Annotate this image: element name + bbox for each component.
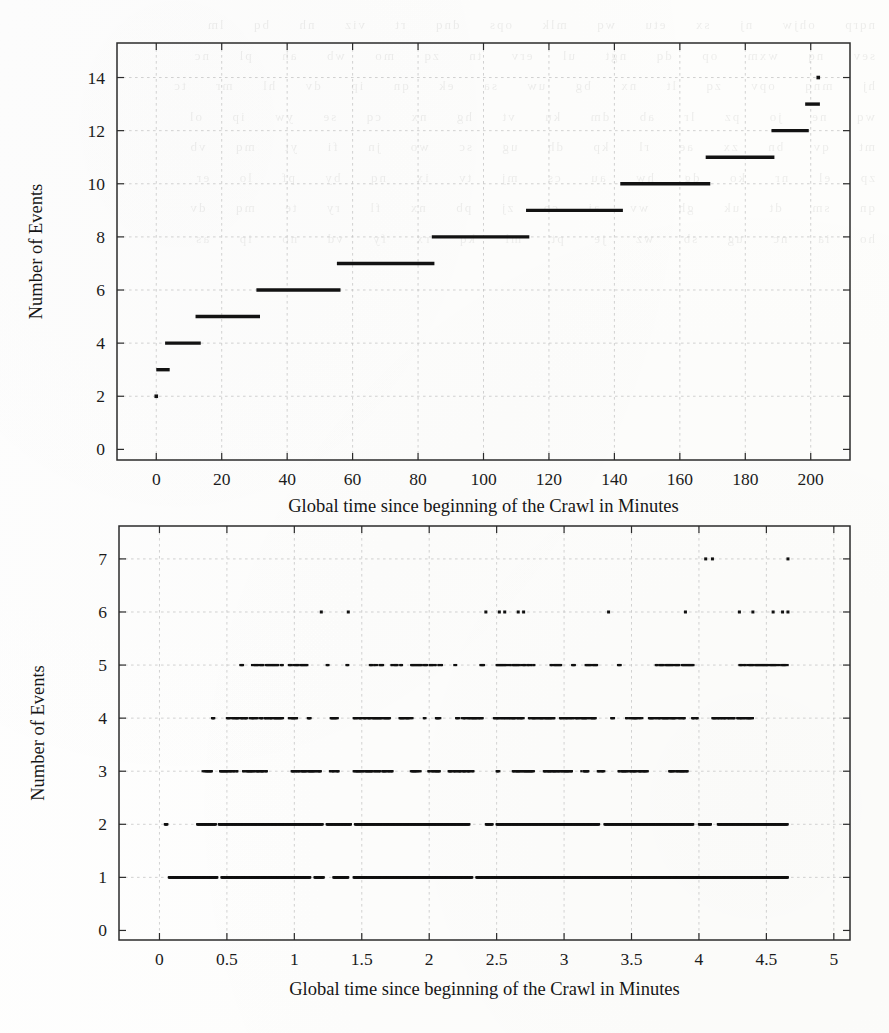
scatter-band-2 — [164, 823, 789, 825]
scatter-point — [322, 823, 324, 825]
scatter-point — [560, 664, 562, 666]
xtick-label-100: 100 — [470, 469, 497, 489]
xtick-label-160: 160 — [667, 469, 694, 489]
scatter-point — [468, 823, 470, 825]
scatter-point — [787, 664, 789, 666]
ytick-label-5: 5 — [98, 655, 107, 675]
ytick-label-4: 4 — [98, 708, 107, 728]
xtick-label-0: 0 — [152, 469, 161, 489]
xtick-label-1_5: 1.5 — [351, 949, 373, 969]
top-yaxis-title: Number of Events — [26, 184, 46, 320]
scatter-point — [704, 557, 707, 560]
bottom-xaxis-title: Global time since beginning of the Crawl… — [289, 979, 680, 999]
scatter-point — [687, 770, 689, 772]
scatter-point — [738, 610, 741, 613]
xtick-label-200: 200 — [798, 469, 825, 489]
scatter-point — [296, 717, 298, 719]
figure-top-step-chart: 02468101214020406080100120140160180200Gl… — [0, 0, 889, 515]
scatter-point — [607, 610, 610, 613]
scatter-point — [483, 664, 485, 666]
scatter-point — [684, 717, 686, 719]
scatter-point — [787, 823, 789, 825]
scatter-point — [733, 717, 735, 719]
scatter-point — [522, 610, 525, 613]
scatter-point — [482, 717, 484, 719]
scatter-point — [596, 664, 598, 666]
ytick-label-3: 3 — [98, 761, 107, 781]
scatter-point — [211, 770, 213, 772]
scatter-point — [411, 717, 413, 719]
scatter-point — [323, 876, 325, 878]
top-ticklabels: 02468101214020406080100120140160180200 — [88, 68, 825, 489]
xtick-label-120: 120 — [536, 469, 563, 489]
scatter-point — [277, 664, 279, 666]
scatter-band-1 — [168, 876, 789, 878]
scatter-point — [435, 664, 437, 666]
scatter-point — [236, 770, 238, 772]
scatter-point — [471, 876, 473, 878]
scatter-point — [441, 664, 443, 666]
scatter-point — [503, 610, 506, 613]
scatter-point — [484, 610, 487, 613]
bottom-chart-svg: 0123456700.511.522.533.544.55Global time… — [0, 515, 889, 1033]
scatter-point — [215, 823, 217, 825]
ytick-label-0: 0 — [96, 439, 105, 459]
scatter-point — [517, 610, 520, 613]
scatter-point — [613, 717, 615, 719]
scatter-point — [787, 876, 789, 878]
scatter-point — [603, 770, 605, 772]
scatter-point — [781, 610, 784, 613]
scatter-point — [246, 717, 248, 719]
scatter-point — [257, 717, 259, 719]
xtick-label-3_5: 3.5 — [621, 949, 643, 969]
scatter-point — [647, 770, 649, 772]
plot-area-bottom: 0123456700.511.522.533.544.55Global time… — [0, 515, 889, 1033]
scatter-point — [458, 717, 460, 719]
scatter-point — [710, 823, 712, 825]
scatter-point — [306, 664, 308, 666]
scatter-point — [166, 823, 168, 825]
step-point-14 — [816, 76, 820, 80]
scatter-band-4 — [211, 717, 754, 719]
scatter-point — [424, 717, 426, 719]
scatter-point — [213, 717, 215, 719]
scatter-point — [320, 770, 322, 772]
top-xaxis-title: Global time since beginning of the Crawl… — [288, 496, 679, 516]
ytick-label-6: 6 — [98, 602, 107, 622]
scatter-point — [391, 770, 393, 772]
scatter-point — [692, 664, 694, 666]
bottom-scatter-series — [164, 557, 790, 878]
scatter-point — [711, 557, 714, 560]
xtick-label-180: 180 — [732, 469, 759, 489]
scatter-point — [498, 610, 501, 613]
scatter-point — [772, 610, 775, 613]
scatter-point — [574, 664, 576, 666]
scatter-point — [347, 610, 350, 613]
ytick-label-2: 2 — [96, 386, 105, 406]
scatter-point — [401, 664, 403, 666]
scatter-point — [379, 770, 381, 772]
scatter-point — [261, 717, 263, 719]
scatter-point — [282, 717, 284, 719]
plot-area-top: 02468101214020406080100120140160180200Gl… — [0, 0, 889, 515]
scatter-point — [347, 664, 349, 666]
scatter-point — [620, 664, 622, 666]
step-point-2 — [154, 394, 158, 398]
xtick-label-2: 2 — [425, 949, 434, 969]
scatter-point — [320, 610, 323, 613]
ytick-label-12: 12 — [88, 121, 106, 141]
scatter-point — [216, 876, 218, 878]
ytick-label-4: 4 — [96, 333, 105, 353]
scatter-point — [266, 770, 268, 772]
scatter-point — [571, 770, 573, 772]
scatter-point — [696, 717, 698, 719]
figure-bottom-scatter-chart: 0123456700.511.522.533.544.55Global time… — [0, 515, 889, 1033]
scatter-point — [587, 770, 589, 772]
ytick-label-6: 6 — [96, 280, 105, 300]
top-step-series — [154, 76, 820, 398]
scatter-point — [376, 664, 378, 666]
ytick-label-10: 10 — [88, 174, 106, 194]
scatter-point — [282, 664, 284, 666]
top-chart-svg: 02468101214020406080100120140160180200Gl… — [0, 0, 889, 515]
xtick-label-20: 20 — [213, 469, 231, 489]
